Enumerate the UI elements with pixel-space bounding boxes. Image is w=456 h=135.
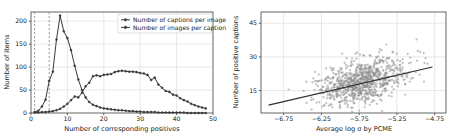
left-x-tick-label: 10 [63,115,71,122]
right-y-axis-title: Number of positive captions [232,15,240,108]
right-y-tick-label: 30 [249,53,257,60]
right-x-tick-label: −5.25 [387,115,406,122]
legend-label: Number of images per caption [133,24,226,32]
right-chart-svg: −6.75−6.25−5.75−5.25−4.75 153045 Average… [228,0,456,135]
left-x-tick-label: 0 [29,115,33,122]
left-x-tick-labels: 01020304050 [29,115,217,122]
right-y-tick-label: 45 [249,19,257,26]
right-x-tick-label: −6.25 [312,115,331,122]
legend-item[interactable]: Number of images per caption [121,24,226,32]
legend-marker [124,26,127,29]
left-x-axis-title: Number of corresponding positives [64,125,180,133]
left-x-tick-label: 50 [209,115,217,122]
left-y-tick-label: 100 [15,63,27,70]
left-threshold-lines [35,12,50,113]
right-x-tick-label: −4.75 [425,115,444,122]
left-legend[interactable]: Number of captions per imageNumber of im… [118,14,226,33]
right-scatter-panel: −6.75−6.25−5.75−5.25−4.75 153045 Average… [228,0,456,135]
left-histogram-panel: 01020304050 050100150200 Number of corre… [0,0,228,135]
left-y-axis-title: Number of items [3,34,11,90]
left-x-tick-label: 20 [100,115,108,122]
right-y-tick-labels: 153045 [249,19,257,93]
left-x-tick-label: 30 [136,115,144,122]
right-x-tick-labels: −6.75−6.25−5.75−5.25−4.75 [274,115,444,122]
right-scatter-points [287,38,428,113]
left-y-tick-label: 50 [19,86,27,93]
left-x-tick-label: 40 [173,115,181,122]
figure-container: 01020304050 050100150200 Number of corre… [0,0,456,135]
left-y-tick-labels: 050100150200 [15,17,27,116]
legend-marker [124,19,127,22]
right-x-tick-label: −5.75 [350,115,369,122]
left-chart-svg: 01020304050 050100150200 Number of corre… [0,0,228,135]
left-y-tick-label: 0 [23,109,27,116]
left-y-tick-label: 200 [15,17,27,24]
right-x-tick-label: −6.75 [274,115,293,122]
right-x-axis-title: Average log σ by PCME [316,125,392,133]
right-y-tick-label: 15 [249,87,257,94]
left-y-tick-label: 150 [15,40,27,47]
